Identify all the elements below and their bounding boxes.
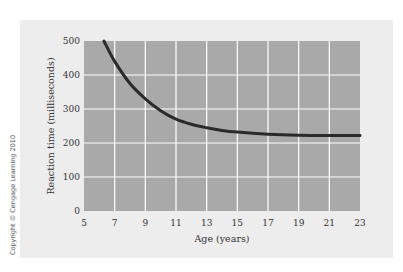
x-tick-label: 15: [232, 218, 244, 228]
copyright-notice: Copyright © Cengage Learning 2010: [9, 135, 17, 255]
x-axis-ticks: 57911131517192123: [81, 218, 366, 228]
x-tick-label: 5: [81, 218, 87, 228]
y-tick-label: 400: [63, 70, 80, 80]
y-tick-label: 200: [63, 138, 80, 148]
x-tick-label: 9: [142, 218, 148, 228]
plot-area: [84, 41, 360, 211]
y-tick-label: 500: [63, 36, 80, 46]
y-axis-ticks: 0100200300400500: [63, 36, 80, 216]
x-tick-label: 17: [262, 218, 274, 228]
x-tick-label: 23: [354, 218, 366, 228]
reaction-time-chart: 0100200300400500 57911131517192123 Age (…: [0, 0, 403, 272]
x-tick-label: 13: [201, 218, 213, 228]
y-tick-label: 100: [63, 172, 80, 182]
x-tick-label: 19: [293, 218, 305, 228]
x-tick-label: 11: [170, 218, 181, 228]
y-axis-label: Reaction time (milliseconds): [45, 57, 56, 194]
x-tick-label: 7: [112, 218, 118, 228]
y-tick-label: 300: [63, 104, 80, 114]
x-tick-label: 21: [324, 218, 335, 228]
x-axis-label: Age (years): [193, 233, 249, 244]
y-tick-label: 0: [74, 206, 80, 216]
